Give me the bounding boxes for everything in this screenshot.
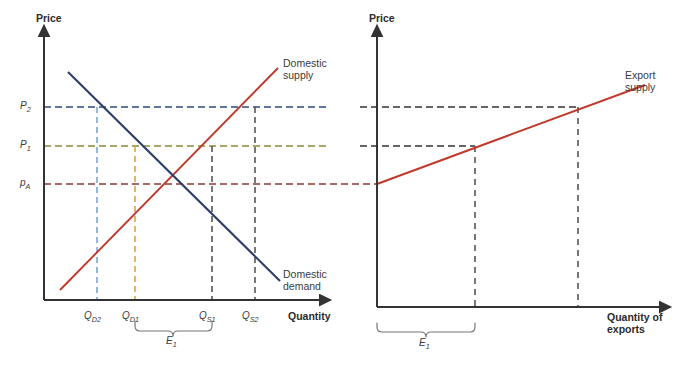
price-tick-p1-sub: 1 <box>27 144 31 153</box>
brace-label-e1-domestic: E1 <box>166 335 177 349</box>
quantity-tick-qs1-base: Q <box>199 310 207 321</box>
curve-label-domestic-demand-line2: demand <box>283 280 327 292</box>
curve-label-domestic-demand-line1: Domestic <box>283 268 327 280</box>
brace-e1-export <box>377 323 475 337</box>
curve-label-domestic-supply: Domestic supply <box>283 57 327 81</box>
quantity-tick-qd2-base: Q <box>84 310 92 321</box>
curve-label-export-supply-line2: supply <box>625 81 655 93</box>
x-axis-title-export: Quantity of exports <box>607 311 662 335</box>
price-tick-p1-base: P <box>20 139 27 150</box>
figure-canvas: Price Quantity P2 P1 pA QD2 QD1 QS1 QS2 … <box>0 0 680 369</box>
quantity-tick-qd1-sub: D1 <box>130 315 139 324</box>
price-tick-p2-sub: 2 <box>27 105 31 114</box>
price-tick-pa-sub: A <box>26 182 31 191</box>
x-axis-title-export-line1: Quantity of <box>607 311 662 323</box>
curve-label-export-supply-line1: Export <box>625 69 655 81</box>
quantity-tick-qs1-sub: S1 <box>207 315 216 324</box>
brace-label-e1-export: E1 <box>419 337 430 351</box>
quantity-tick-label-qd2: QD2 <box>84 310 101 324</box>
y-axis-title-domestic: Price <box>36 12 62 24</box>
brace-e1-export-sub: 1 <box>426 342 430 351</box>
quantity-tick-qd1-base: Q <box>122 310 130 321</box>
brace-e1-domestic-sub: 1 <box>173 340 177 349</box>
y-axis-title-export: Price <box>369 12 395 24</box>
price-tick-label-p1: P1 <box>20 139 31 153</box>
x-axis-title-domestic: Quantity <box>288 310 331 322</box>
price-tick-p2-base: P <box>20 100 27 111</box>
quantity-tick-label-qs2: QS2 <box>242 310 259 324</box>
curve-label-domestic-supply-line2: supply <box>283 69 327 81</box>
curve-label-domestic-supply-line1: Domestic <box>283 57 327 69</box>
brace-e1-export-base: E <box>419 337 426 348</box>
curve-label-export-supply: Export supply <box>625 69 655 93</box>
diagram-svg <box>0 0 680 369</box>
quantity-tick-qd2-sub: D2 <box>92 315 101 324</box>
curve-label-domestic-demand: Domestic demand <box>283 268 327 292</box>
curve-export-supply <box>377 85 645 184</box>
price-tick-label-p2: P2 <box>20 100 31 114</box>
brace-e1-domestic-base: E <box>166 335 173 346</box>
panel-export-market <box>330 33 663 337</box>
x-axis-title-export-line2: exports <box>607 323 662 335</box>
quantity-tick-label-qs1: QS1 <box>199 310 216 324</box>
price-tick-label-pa: pA <box>20 177 30 191</box>
quantity-tick-qs2-base: Q <box>242 310 250 321</box>
quantity-tick-label-qd1: QD1 <box>122 310 139 324</box>
curve-domestic-supply <box>60 68 278 290</box>
quantity-tick-qs2-sub: S2 <box>250 315 259 324</box>
